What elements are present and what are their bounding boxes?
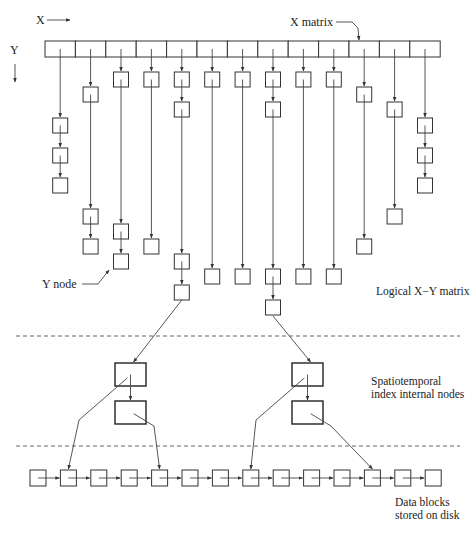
y-axis-label: Y: [10, 43, 19, 57]
y-node: [357, 239, 372, 254]
y-column: [266, 49, 281, 315]
data-block: [425, 470, 441, 486]
y-column: [326, 49, 341, 284]
y-node: [235, 269, 250, 284]
internal-nodes-label-line2: index internal nodes: [371, 388, 465, 400]
y-node-columns: [53, 49, 433, 315]
y-column: [387, 49, 402, 224]
y-column: [418, 49, 433, 193]
y-node: [174, 285, 189, 300]
y-node: [53, 178, 68, 193]
logical-matrix-label: Logical X−Y matrix: [376, 285, 470, 298]
y-column: [53, 49, 68, 193]
index-node-lower: [292, 401, 323, 424]
y-column: [296, 49, 311, 284]
y-node: [266, 300, 281, 315]
y-column: [235, 49, 250, 284]
y-node: [418, 178, 433, 193]
y-column: [357, 49, 372, 254]
y-node: [144, 239, 159, 254]
xy-matrix-diagram: X Y X matrix Y node Logical X−Y matrix S…: [0, 0, 476, 537]
y-node: [296, 269, 311, 284]
data-blocks: [30, 470, 441, 486]
y-node-pointer: [82, 270, 109, 284]
internal-nodes-label-line1: Spatiotemporal: [371, 375, 441, 388]
x-matrix-label: X matrix: [290, 15, 333, 29]
y-node: [205, 269, 220, 284]
y-node: [114, 254, 129, 269]
index-internal-nodes: [68, 300, 372, 469]
y-column: [205, 49, 220, 284]
y-node: [326, 269, 341, 284]
x-axis-label: X: [36, 13, 45, 27]
data-blocks-label-line2: stored on disk: [395, 509, 460, 521]
y-column: [83, 49, 98, 254]
x-matrix-pointer: [336, 22, 359, 40]
y-column: [114, 49, 129, 269]
y-column: [144, 49, 159, 254]
y-node: [83, 239, 98, 254]
index-pointer-arrow: [134, 300, 182, 362]
y-column: [174, 49, 189, 300]
index-pointer-arrow: [273, 316, 311, 362]
index-node-lower: [115, 401, 146, 424]
y-node-label: Y node: [42, 277, 77, 291]
y-node: [387, 209, 402, 224]
data-blocks-label-line1: Data blocks: [395, 496, 450, 508]
left-index-tree: [68, 300, 181, 469]
